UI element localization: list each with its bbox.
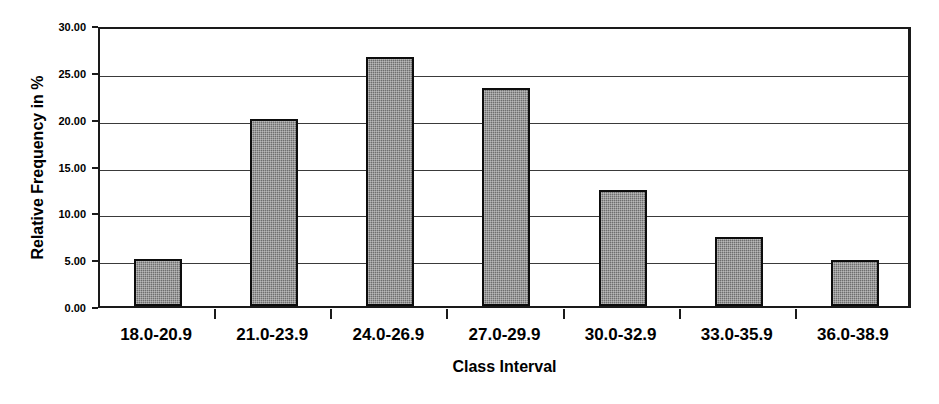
bar-slot [797,29,913,306]
y-tick-label: 30.00 [34,21,86,33]
bar-slot [448,29,564,306]
x-tick-label: 27.0-29.9 [446,325,562,345]
y-tick-label: 5.00 [34,255,86,267]
bars-layer [100,29,908,306]
x-tick-mark [330,309,332,319]
bar-slot [565,29,681,306]
y-tick-label: 20.00 [34,115,86,127]
x-tick-mark [446,309,448,319]
y-tick-label: 15.00 [34,162,86,174]
bar[interactable] [715,237,763,306]
x-tick-label: 30.0-32.9 [563,325,679,345]
y-tick-label: 10.00 [34,208,86,220]
x-tick-mark [214,309,216,319]
bar-slot [216,29,332,306]
bar[interactable] [366,57,414,306]
bar[interactable] [134,259,182,306]
x-tick-mark [679,309,681,319]
bar[interactable] [250,119,298,306]
bar[interactable] [831,260,879,306]
x-tick-mark [563,309,565,319]
bar[interactable] [599,190,647,306]
x-axis-title: Class Interval [98,358,911,376]
y-tick-label: 25.00 [34,68,86,80]
bar-slot [100,29,216,306]
bar-slot [681,29,797,306]
y-tick-label: 0.00 [34,302,86,314]
x-tick-label: 33.0-35.9 [679,325,795,345]
x-tick-label: 24.0-26.9 [330,325,446,345]
histogram-chart: Relative Frequency in % 30.0025.0020.001… [0,0,939,404]
x-tick-label: 36.0-38.9 [795,325,911,345]
bar-slot [332,29,448,306]
x-tick-label: 18.0-20.9 [98,325,214,345]
x-tick-mark [795,309,797,319]
bar[interactable] [482,88,530,306]
x-tick-label: 21.0-23.9 [214,325,330,345]
plot-area [98,27,911,308]
